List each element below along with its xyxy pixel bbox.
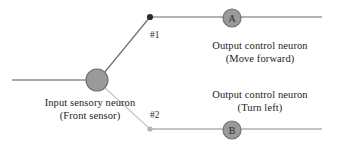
branch-to-synapse-1 (104, 17, 150, 73)
synapse-dot-1 (147, 14, 153, 20)
output-neuron-b-caption-line1: Output control neuron (190, 88, 330, 101)
output-neuron-a-caption-line2: (Move forward) (190, 52, 330, 65)
output-neuron-a-caption-line1: Output control neuron (190, 39, 330, 52)
synapse-dot-2 (147, 126, 152, 131)
synapse-1-label: #1 (150, 30, 160, 40)
input-neuron-caption-line1: Input sensory neuron (14, 96, 166, 109)
output-neuron-b-caption-line2: (Turn left) (190, 101, 330, 114)
input-neuron-caption-line2: (Front sensor) (14, 109, 166, 122)
diagram-canvas: A B (0, 0, 337, 146)
output-neuron-b-caption: Output control neuron (Turn left) (190, 88, 330, 114)
output-neuron-a-letter: A (228, 13, 236, 24)
input-sensory-neuron (86, 69, 108, 91)
output-neuron-a-caption: Output control neuron (Move forward) (190, 39, 330, 65)
output-neuron-b-letter: B (229, 125, 236, 136)
neuron-diagram: A B #1 #2 Input sensory neuron (Front se… (0, 0, 337, 146)
input-neuron-caption: Input sensory neuron (Front sensor) (14, 96, 166, 122)
